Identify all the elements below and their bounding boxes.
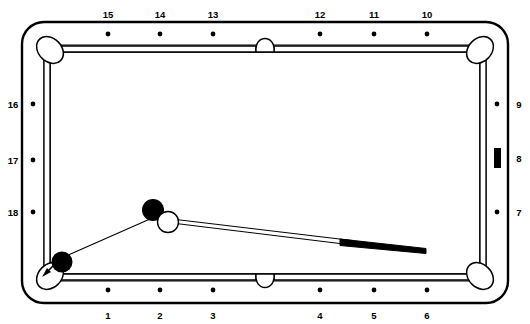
label-left-16: 16 (8, 99, 19, 110)
top-side-pocket (256, 39, 274, 53)
sight-dot-bottom-1 (106, 288, 111, 293)
sight-dot-top-14 (158, 32, 163, 37)
sight-dot-top-13 (211, 32, 216, 37)
label-top-10: 10 (422, 9, 433, 20)
label-right-9: 9 (516, 99, 521, 110)
sight-dot-bottom-3 (211, 288, 216, 293)
label-left-18: 18 (8, 207, 19, 218)
sight-dot-left-16 (31, 102, 36, 107)
label-top-14: 14 (155, 9, 166, 20)
label-top-15: 15 (103, 9, 114, 20)
sight-dot-top-11 (372, 32, 377, 37)
cue-ball (158, 212, 179, 233)
cushion-bottom-left (58, 274, 256, 280)
cushion-top-right (274, 46, 472, 52)
sight-dot-right-7 (495, 210, 500, 215)
pool-table-diagram: 15 14 13 12 11 10 1 2 3 4 5 6 16 17 18 9… (0, 0, 530, 324)
sight-dot-top-12 (318, 32, 323, 37)
label-bottom-3: 3 (210, 310, 215, 321)
cushion-right (480, 60, 486, 266)
label-bottom-2: 2 (157, 310, 162, 321)
sight-dot-top-10 (425, 32, 430, 37)
label-right-8: 8 (516, 153, 521, 164)
cushion-left (44, 60, 50, 266)
object-ball-pocket (52, 252, 73, 273)
label-bottom-5: 5 (371, 310, 377, 321)
label-top-12: 12 (315, 9, 326, 20)
label-right-7: 7 (516, 207, 521, 218)
cushion-bottom-right (274, 274, 472, 280)
playing-surface (50, 52, 480, 274)
bottom-side-pocket (256, 274, 274, 288)
label-bottom-6: 6 (424, 310, 429, 321)
label-left-17: 17 (8, 155, 19, 166)
label-top-11: 11 (369, 9, 380, 20)
right-rail-marker (494, 148, 501, 168)
label-top-13: 13 (208, 9, 219, 20)
sight-dot-top-15 (106, 32, 111, 37)
sight-dot-bottom-2 (158, 288, 163, 293)
cushion-top-left (58, 46, 256, 52)
sight-dot-bottom-4 (318, 288, 323, 293)
sight-dot-left-18 (31, 210, 36, 215)
label-bottom-4: 4 (317, 310, 323, 321)
sight-dot-bottom-5 (372, 288, 377, 293)
sight-dot-right-9 (495, 102, 500, 107)
sight-dot-bottom-6 (425, 288, 430, 293)
sight-dot-left-17 (31, 158, 36, 163)
label-bottom-1: 1 (105, 310, 111, 321)
